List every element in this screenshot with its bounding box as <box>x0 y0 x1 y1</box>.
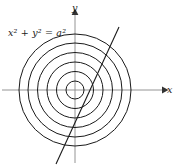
x-axis-label: x <box>167 84 172 95</box>
figure-canvas: x² + y² = a² x y <box>0 0 179 167</box>
y-axis-label: y <box>72 2 77 13</box>
equation-label: x² + y² = a² <box>8 27 66 38</box>
diagonal-line <box>56 27 119 164</box>
math-diagram-svg <box>0 0 179 167</box>
